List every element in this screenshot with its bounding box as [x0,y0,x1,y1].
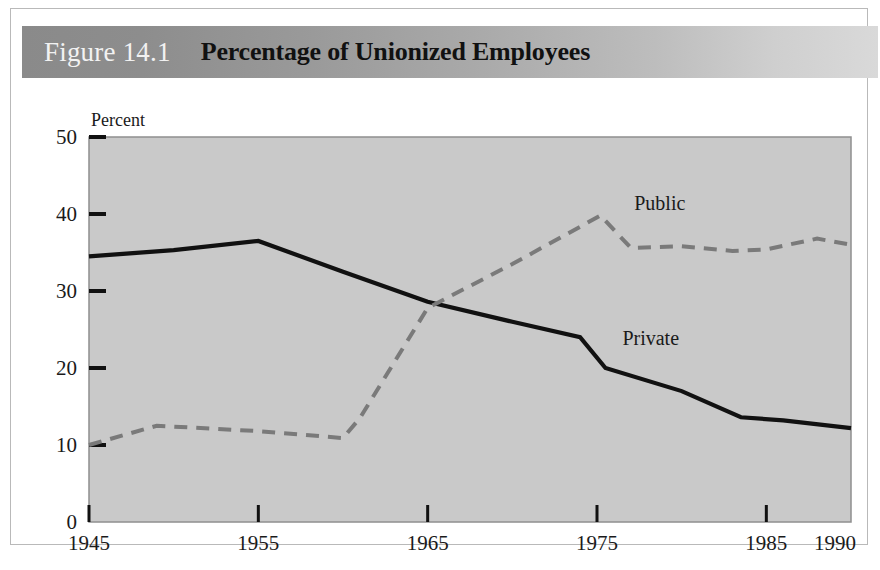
chart-region: 01020304050 194519551965197519851990 Per… [22,78,878,553]
figure-title: Percentage of Unionized Employees [201,37,590,67]
x-axis-tick-label: 1965 [407,531,449,553]
figure-screenshot: Figure 14.1 Percentage of Unionized Empl… [0,0,880,570]
y-axis-tick-label: 40 [56,202,77,226]
figure-card: Figure 14.1 Percentage of Unionized Empl… [10,8,868,545]
line-chart: 01020304050 194519551965197519851990 Per… [22,78,878,553]
figure-number: Figure 14.1 [44,37,171,68]
y-axis-tick-label: 20 [56,356,77,380]
x-axis-tick-labels: 194519551965197519851990 [68,531,856,553]
x-axis-tick-label: 1985 [745,531,787,553]
plot-area-background [89,137,851,522]
x-axis-tick-label: 1955 [237,531,279,553]
y-axis-tick-label: 10 [56,433,77,457]
series-label-public: Public [634,192,685,214]
x-axis-tick-label: 1975 [576,531,618,553]
y-axis-tick-label: 30 [56,279,77,303]
x-axis-tick-label: 1990 [814,531,856,553]
series-label-private: Private [622,327,679,349]
x-axis-tick-label: 1945 [68,531,110,553]
figure-header-bar: Figure 14.1 Percentage of Unionized Empl… [22,26,878,78]
y-axis-unit-label: Percent [91,110,145,130]
y-axis-tick-labels: 01020304050 [56,125,77,534]
y-axis-tick-label: 50 [56,125,77,149]
